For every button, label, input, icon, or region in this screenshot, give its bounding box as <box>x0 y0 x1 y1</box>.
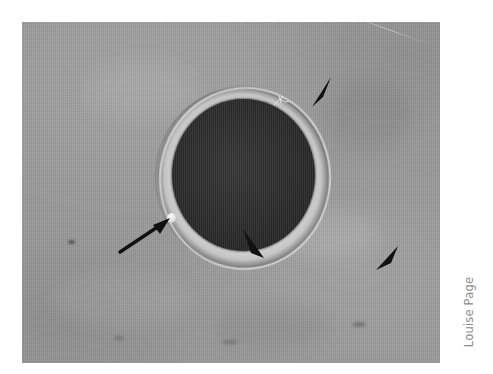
photo-credit: Louise Page <box>462 264 476 360</box>
figure-page: Louise Page <box>0 0 493 374</box>
pointer-arrow <box>118 214 178 254</box>
arrowhead-bottom-right <box>372 244 404 278</box>
debris-artifact-icon <box>272 96 290 110</box>
arrowhead-cell-bottom <box>240 227 272 263</box>
arrowhead-top-right <box>309 75 335 113</box>
micrograph-photo <box>22 22 440 363</box>
photo-credit-label: Louise Page <box>462 277 476 348</box>
